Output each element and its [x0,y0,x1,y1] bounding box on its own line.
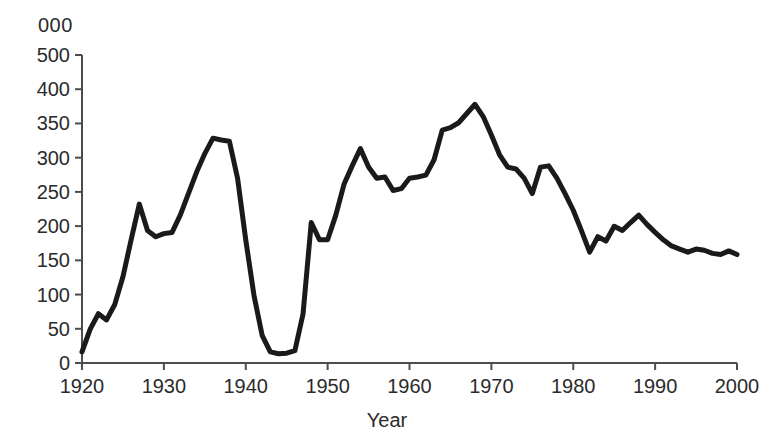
x-tick-label: 1950 [305,375,350,398]
y-tick-label: 150 [20,249,70,272]
x-tick-label: 1990 [633,375,678,398]
y-tick-label: 100 [20,283,70,306]
x-tick-label: 1940 [224,375,269,398]
y-tick-label: 50 [20,317,70,340]
y-tick-label: 200 [20,215,70,238]
y-tick-label: 350 [20,112,70,135]
y-tick-label: 400 [20,78,70,101]
x-tick-marks [82,363,737,370]
x-tick-label: 1930 [142,375,187,398]
x-tick-label: 1960 [387,375,432,398]
data-series-line [82,104,737,353]
y-tick-label: 250 [20,180,70,203]
y-tick-marks [75,55,82,363]
plot-area: 500400350300250200150100500 192019301940… [0,0,774,433]
y-tick-label: 0 [20,352,70,375]
x-tick-label: 1970 [469,375,514,398]
x-tick-label: 1920 [60,375,105,398]
chart-svg [0,0,774,433]
x-tick-label: 2000 [715,375,760,398]
y-tick-label: 500 [20,44,70,67]
chart-figure: 000 500400350300250200150100500 19201930… [0,0,774,433]
x-axis-title: Year [0,409,774,432]
y-tick-label: 300 [20,146,70,169]
x-tick-label: 1980 [551,375,596,398]
